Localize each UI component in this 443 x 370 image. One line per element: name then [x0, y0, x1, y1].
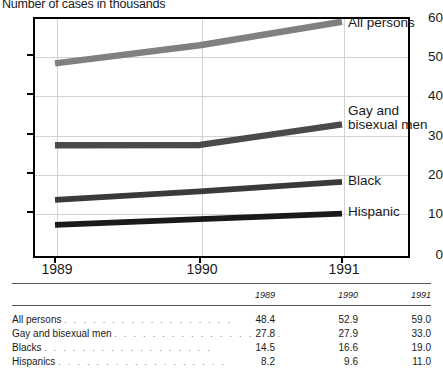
- gridline-x-1991: [344, 19, 345, 256]
- gridline-x-1989: [57, 19, 58, 256]
- table-header-1989: 1989: [255, 290, 275, 300]
- axis-bottom-rule: [12, 283, 431, 284]
- leader-dots: . . . . . . . . . . . . . . . . . .: [44, 343, 212, 353]
- table-cell-value: 33.0: [412, 328, 431, 339]
- ytick-label-40: 40: [417, 88, 443, 103]
- table-header-1991: 1991: [411, 290, 431, 300]
- ytick-label-50: 50: [417, 49, 443, 64]
- leader-dots: . . . . . . . . . . . . . . . . . .: [58, 357, 226, 367]
- ytick-mark-10: [27, 211, 34, 213]
- series-label-black: Black: [348, 174, 381, 188]
- table-cell-value: 59.0: [412, 314, 431, 325]
- ytick-label-20: 20: [417, 166, 443, 181]
- table-row-label: Hispanics: [12, 356, 55, 367]
- table-cell-value: 27.9: [339, 328, 358, 339]
- table-row: Hispanics . . . . . . . . . . . . . . . …: [12, 356, 226, 367]
- table-header-1990: 1990: [338, 290, 358, 300]
- table-cell-value: 27.8: [256, 328, 275, 339]
- ytick-mark-30: [27, 133, 34, 135]
- table-cell-value: 14.5: [256, 342, 275, 353]
- ytick-label-0: 0: [417, 247, 443, 262]
- table-row: Gay and bisexual men . . . . . . . . . .…: [12, 328, 282, 339]
- xtick-label-1989: 1989: [41, 261, 72, 277]
- table-row-label: Blacks: [12, 342, 41, 353]
- ytick-label-10: 10: [417, 206, 443, 221]
- table-cell-value: 48.4: [256, 314, 275, 325]
- table-cell-value: 16.6: [339, 342, 358, 353]
- table-row: Blacks . . . . . . . . . . . . . . . . .…: [12, 342, 212, 353]
- gridline-y-50: [35, 57, 408, 58]
- series-label-hispanic: Hispanic: [348, 205, 400, 219]
- plot-area: [33, 17, 410, 258]
- xtick-label-1990: 1990: [186, 261, 217, 277]
- series-label-gay-bisexual-men: Gay and bisexual men: [348, 104, 428, 132]
- chart-title: Number of cases in thousands: [2, 0, 165, 11]
- table-cell-value: 11.0: [412, 356, 431, 367]
- series-label-gay-bisexual-men-line2: bisexual men: [348, 118, 428, 132]
- table-row: All persons . . . . . . . . . . . . . . …: [12, 314, 232, 325]
- table-row-label: Gay and bisexual men: [12, 328, 112, 339]
- table-row-label: All persons: [12, 314, 61, 325]
- table-cell-value: 9.6: [344, 356, 358, 367]
- ytick-mark-50: [27, 54, 34, 56]
- ytick-mark-20: [27, 172, 34, 174]
- series-label-gay-bisexual-men-line1: Gay and: [348, 104, 428, 118]
- table-cell-value: 8.2: [261, 356, 275, 367]
- ytick-mark-40: [27, 93, 34, 95]
- leader-dots: . . . . . . . . . . . . . . . . . .: [64, 315, 232, 325]
- chart-figure: Number of cases in thousands 60 50 40 30…: [0, 0, 443, 370]
- gridline-y-40: [35, 96, 408, 97]
- table-cell-value: 52.9: [339, 314, 358, 325]
- ytick-label-60: 60: [417, 10, 443, 25]
- gridline-y-30: [35, 136, 408, 137]
- table-header-rule: [12, 305, 431, 306]
- gridline-x-1990: [202, 19, 203, 256]
- table-cell-value: 19.0: [412, 342, 431, 353]
- xtick-label-1991: 1991: [328, 261, 359, 277]
- series-label-all-persons: All persons: [348, 16, 415, 30]
